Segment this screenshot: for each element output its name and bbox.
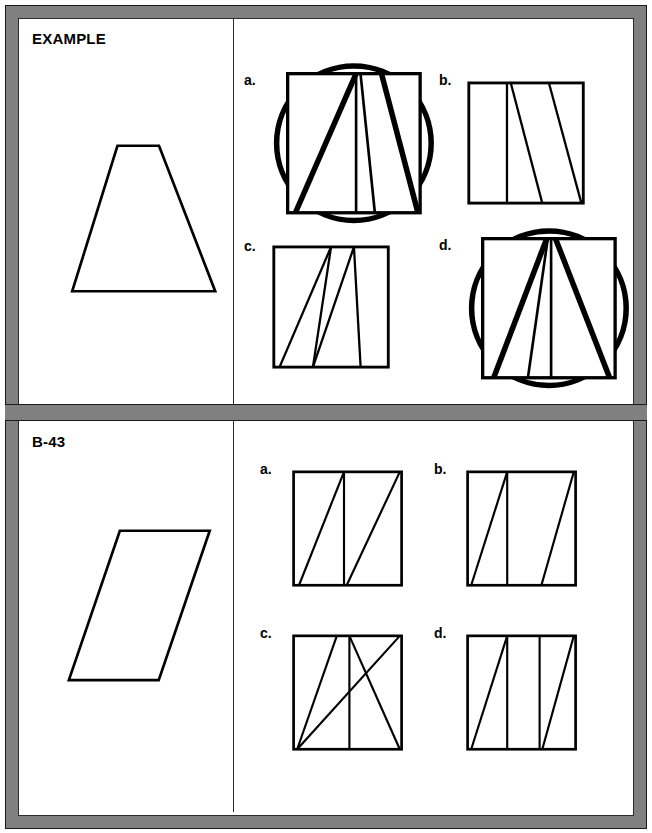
option-rectangle [274,247,388,367]
prompt-figure-trapezoid [48,136,248,301]
option-figure-b43-c [290,629,407,757]
prompt-figure-parallelogram [48,521,233,691]
option-figure-example-d [465,221,635,391]
item-separator [5,404,647,421]
b43-b-svg [464,465,581,593]
trapezoid-svg [48,136,248,301]
example-a-svg [270,56,440,226]
example-c-svg [270,242,394,373]
b43-a-svg [290,465,407,593]
b43-d-svg [464,629,581,757]
option-letter-b43-b: b. [434,461,446,477]
option-letter-example-b: b. [439,72,451,88]
option-letter-example-a: a. [244,72,256,88]
option-figure-example-c [270,242,394,373]
option-figure-b43-d [464,629,581,757]
b43-c-svg [290,629,407,757]
option-rectangle [294,472,402,585]
options-pane-b43: a. b. [234,421,634,812]
option-rectangle [468,472,576,585]
example-d-svg [465,221,635,391]
trapezoid-shape [72,146,215,291]
option-figure-b43-a [290,465,407,593]
options-pane-example: a. b. [234,18,634,404]
option-figure-b43-b [464,465,581,593]
option-figure-example-b [465,78,589,209]
option-rectangle [468,636,576,749]
item-example: EXAMPLE a. [18,18,634,404]
example-b-svg [465,78,589,209]
prompt-pane-b43 [18,421,233,812]
option-letter-example-c: c. [244,238,256,254]
option-letter-b43-d: d. [434,625,446,641]
parallelogram-shape [69,531,210,680]
prompt-pane-example [18,18,233,404]
option-letter-b43-a: a. [260,461,272,477]
test-page: EXAMPLE a. [0,0,652,833]
option-letter-example-d: d. [439,237,451,253]
option-letter-b43-c: c. [260,625,272,641]
parallelogram-svg [48,521,233,691]
option-figure-example-a [270,56,440,226]
item-b43: B-43 a. [18,421,634,812]
